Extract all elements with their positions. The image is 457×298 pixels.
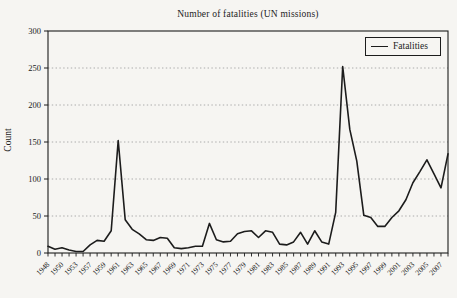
x-tick-label-1969: 1969 bbox=[161, 260, 178, 277]
x-tick-label-1953: 1953 bbox=[62, 260, 79, 277]
x-tick-label-1989: 1989 bbox=[301, 260, 318, 277]
x-tick-label-1959: 1959 bbox=[90, 260, 107, 277]
x-tick-label-1948: 1948 bbox=[34, 260, 51, 277]
x-tick-label-1965: 1965 bbox=[133, 260, 150, 277]
legend-label: Fatalities bbox=[393, 42, 428, 52]
x-tick-label-1967: 1967 bbox=[147, 260, 164, 277]
x-tick-label-1991: 1991 bbox=[315, 260, 332, 277]
x-tick-label-2007: 2007 bbox=[427, 260, 444, 277]
x-tick-label-1979: 1979 bbox=[231, 260, 248, 277]
y-tick-label-100: 100 bbox=[28, 174, 41, 184]
x-tick-label-1993: 1993 bbox=[329, 260, 346, 277]
page: { "page": { "background": "#f6f5f2" }, "… bbox=[0, 0, 457, 298]
x-tick-label-1975: 1975 bbox=[203, 260, 220, 277]
x-tick-label-1997: 1997 bbox=[357, 260, 374, 277]
legend-line-icon bbox=[371, 46, 388, 47]
x-tick-label-1971: 1971 bbox=[175, 260, 192, 277]
x-tick-label-1961: 1961 bbox=[104, 260, 121, 277]
x-tick-label-1977: 1977 bbox=[217, 260, 234, 277]
x-tick-label-1963: 1963 bbox=[119, 260, 136, 277]
y-tick-label-250: 250 bbox=[28, 63, 41, 73]
x-tick-label-2005: 2005 bbox=[413, 260, 430, 277]
y-tick-label-150: 150 bbox=[28, 137, 41, 147]
x-tick-label-1987: 1987 bbox=[287, 260, 304, 277]
y-tick-label-0: 0 bbox=[37, 248, 41, 258]
y-tick-label-300: 300 bbox=[28, 26, 41, 36]
fatalities-series-line bbox=[48, 67, 448, 252]
x-tick-label-1995: 1995 bbox=[343, 260, 360, 277]
plot-frame bbox=[48, 31, 448, 253]
y-tick-label-200: 200 bbox=[28, 100, 41, 110]
legend: Fatalities bbox=[365, 37, 441, 56]
y-tick-label-50: 50 bbox=[33, 211, 42, 221]
x-tick-label-1957: 1957 bbox=[76, 260, 93, 277]
x-tick-label-1999: 1999 bbox=[371, 260, 388, 277]
x-tick-label-1973: 1973 bbox=[189, 260, 206, 277]
x-tick-label-1950: 1950 bbox=[48, 260, 65, 277]
x-tick-label-2003: 2003 bbox=[399, 260, 416, 277]
x-tick-label-1985: 1985 bbox=[273, 260, 290, 277]
x-tick-label-1983: 1983 bbox=[259, 260, 276, 277]
x-tick-label-2001: 2001 bbox=[385, 260, 402, 277]
x-tick-label-1981: 1981 bbox=[245, 260, 262, 277]
